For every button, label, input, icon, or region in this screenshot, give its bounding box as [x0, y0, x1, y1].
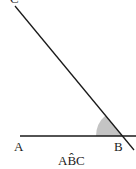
point-label-b: B	[114, 140, 123, 153]
ray-bc	[15, 6, 134, 150]
angle-arc	[96, 115, 123, 136]
angle-label: AB̂C	[58, 154, 85, 167]
point-label-c: C	[10, 0, 19, 5]
point-label-a: A	[14, 140, 23, 153]
